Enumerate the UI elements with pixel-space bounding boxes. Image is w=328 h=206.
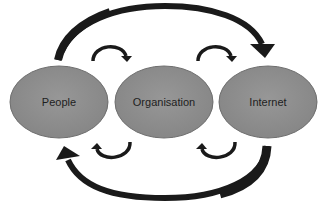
node-people: People <box>10 66 108 138</box>
small-arrow-organisation-to-people <box>91 142 130 157</box>
large-arrow-people-to-internet <box>58 6 275 60</box>
small-arrow-people-to-organisation <box>93 47 132 62</box>
large-arrow-internet-to-people <box>56 146 267 198</box>
small-arrow-organisation-to-internet <box>198 47 237 62</box>
node-internet: Internet <box>219 66 317 138</box>
diagram-canvas: People Organisation Internet <box>0 0 328 206</box>
node-label-organisation: Organisation <box>133 96 195 108</box>
node-label-internet: Internet <box>249 96 286 108</box>
node-organisation: Organisation <box>115 66 213 138</box>
small-arrow-internet-to-organisation <box>196 142 235 157</box>
node-label-people: People <box>42 96 76 108</box>
